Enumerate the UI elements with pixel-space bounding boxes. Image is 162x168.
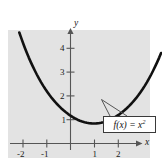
y-tick-label-1: 1 xyxy=(62,116,67,125)
parabola-figure: 4 3 2 1 -2 -1 1 2 y x f(x) = x2 xyxy=(0,0,162,168)
callout-leader-line xyxy=(102,100,128,117)
y-tick-label-2: 2 xyxy=(60,92,65,101)
x-tick-label-neg2: -2 xyxy=(17,150,25,159)
x-axis-label: x xyxy=(145,138,149,148)
y-tick-label-4: 4 xyxy=(60,44,65,53)
function-callout-label: f(x) = x2 xyxy=(114,118,146,130)
x-axis xyxy=(10,140,143,146)
parabola-curve xyxy=(19,33,161,124)
x-tick-label-2: 2 xyxy=(116,150,121,159)
x-tick-label-1: 1 xyxy=(93,150,98,159)
y-axis-label: y xyxy=(74,19,78,29)
plot-canvas xyxy=(0,0,162,168)
function-callout-box: f(x) = x2 xyxy=(103,116,156,133)
y-axis xyxy=(67,28,73,150)
function-callout-exponent: 2 xyxy=(142,118,145,125)
y-tick-label-3: 3 xyxy=(60,68,65,77)
x-tick-label-neg1: -1 xyxy=(41,150,49,159)
function-callout-base: f(x) = x xyxy=(114,121,143,131)
